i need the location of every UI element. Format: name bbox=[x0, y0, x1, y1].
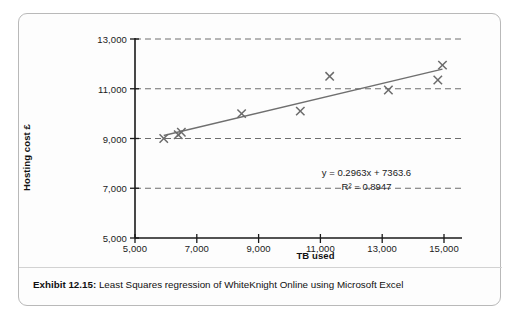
data-point-marker bbox=[325, 72, 333, 80]
y-axis-tick-label: 11,000 bbox=[59, 83, 127, 94]
data-point-marker bbox=[434, 76, 442, 84]
data-point-marker bbox=[296, 107, 304, 115]
y-axis-tick-label: 13,000 bbox=[59, 34, 127, 45]
y-axis-title: Hosting cost £ bbox=[21, 124, 32, 191]
x-axis-title: TB used bbox=[19, 250, 502, 261]
y-axis-tick-label: 7,000 bbox=[59, 183, 127, 194]
figure-caption: Exhibit 12.15: Least Squares regression … bbox=[33, 279, 403, 290]
caption-description: Least Squares regression of WhiteKnight … bbox=[99, 279, 403, 290]
axis-ticks-group bbox=[130, 39, 444, 243]
data-point-marker bbox=[384, 86, 392, 94]
x-axis-title-text: TB used bbox=[296, 250, 334, 261]
regression-equation-annotation: y = 0.2963x + 7363.6 R² = 0.8947 bbox=[274, 166, 459, 194]
chart-plot-region: 5,0007,0009,00011,00013,000 5,0007,0009,… bbox=[19, 14, 502, 269]
r-squared-text: R² = 0.8947 bbox=[274, 180, 459, 194]
trendline-path bbox=[164, 69, 443, 135]
data-point-marker bbox=[438, 61, 446, 69]
y-axis-tick-label: 9,000 bbox=[59, 133, 127, 144]
caption-bar: Exhibit 12.15: Least Squares regression … bbox=[19, 267, 502, 305]
figure-container: 5,0007,0009,00011,00013,000 5,0007,0009,… bbox=[18, 13, 501, 306]
caption-exhibit-label: Exhibit 12.15: bbox=[33, 279, 96, 290]
regression-equation-text: y = 0.2963x + 7363.6 bbox=[274, 166, 459, 180]
y-axis-tick-label: 5,000 bbox=[59, 233, 127, 244]
trendline bbox=[164, 69, 443, 135]
